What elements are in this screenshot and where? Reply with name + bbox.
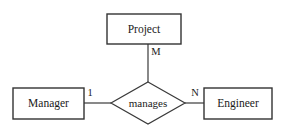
entity-label-manager: Manager bbox=[28, 97, 69, 110]
cardinality-label-project-manages: M bbox=[151, 46, 161, 57]
cardinality-label-manager-manages: 1 bbox=[87, 87, 92, 98]
entity-label-project: Project bbox=[128, 23, 161, 36]
relationship-label-manages: manages bbox=[129, 97, 167, 109]
cardinality-label-manages-engineer: N bbox=[191, 87, 199, 98]
entity-label-engineer: Engineer bbox=[217, 97, 259, 110]
er-diagram-svg: Project Manager Engineer manages M 1 N bbox=[0, 0, 287, 136]
er-diagram-canvas: Project Manager Engineer manages M 1 N bbox=[0, 0, 287, 136]
